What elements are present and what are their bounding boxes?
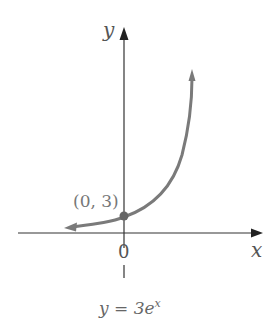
curve-left-arrow-icon [64, 223, 77, 232]
origin-label: 0 [118, 241, 129, 262]
chart: y x 0 (0, 3) y = 3ex [0, 0, 278, 330]
caption: y = 3ex [99, 297, 161, 318]
x-axis-arrow-icon [251, 229, 263, 238]
caption-text: y = 3e [99, 298, 155, 318]
y-axis-arrow-icon [120, 27, 129, 40]
plot-area [0, 0, 278, 330]
point-label: (0, 3) [73, 191, 119, 211]
point-0-3 [120, 212, 129, 221]
y-axis-label: y [103, 18, 114, 42]
curve-top-arrow-icon [189, 69, 196, 81]
x-axis-label: x [251, 238, 262, 262]
caption-exponent: x [155, 297, 161, 310]
